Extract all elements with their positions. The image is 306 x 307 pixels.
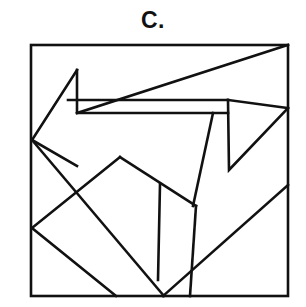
line-art-figure xyxy=(0,0,306,307)
figure-panel: C. xyxy=(0,0,306,307)
